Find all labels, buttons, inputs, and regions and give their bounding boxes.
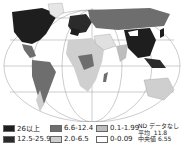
legend-swatch bbox=[96, 136, 108, 143]
legend-note: ND データなし 平均 11.8 中央値 6.55 bbox=[138, 123, 179, 143]
legend-swatch bbox=[96, 125, 108, 132]
legend-item: 26以上 bbox=[3, 123, 40, 133]
legend-item: 0-0.09 bbox=[96, 134, 133, 144]
legend-item: 2.0-6.5 bbox=[50, 134, 89, 144]
legend-label: 0-0.09 bbox=[110, 135, 133, 143]
legend-label: 0.1-1.99 bbox=[110, 124, 139, 132]
legend-item: 0.1-1.99 bbox=[96, 123, 139, 133]
legend-item: 12.5-25.9 bbox=[3, 134, 51, 144]
map-legend: 26以上 12.5-25.9 6.6-12.4 2.0-6.5 0.1-1.99… bbox=[0, 123, 185, 146]
legend-label: 26以上 bbox=[17, 123, 40, 133]
legend-swatch bbox=[50, 136, 62, 143]
legend-swatch bbox=[3, 136, 15, 143]
median-label: 中央値 bbox=[138, 135, 156, 142]
median-value: 6.55 bbox=[158, 135, 171, 142]
legend-item: 6.6-12.4 bbox=[50, 123, 93, 133]
legend-swatch bbox=[3, 125, 15, 132]
world-map bbox=[0, 0, 185, 122]
legend-label: 12.5-25.9 bbox=[17, 135, 51, 143]
legend-label: 6.6-12.4 bbox=[64, 124, 93, 132]
legend-label: 2.0-6.5 bbox=[64, 135, 89, 143]
world-map-graphic bbox=[0, 0, 185, 122]
legend-swatch bbox=[50, 125, 62, 132]
median-row: 中央値 6.55 bbox=[138, 136, 179, 143]
